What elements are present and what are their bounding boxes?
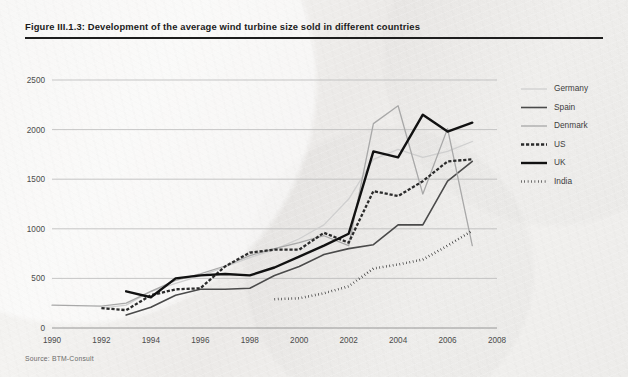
data-series-group	[52, 106, 472, 315]
x-axis-ticks-group: 1990199219941996199820002002200420062008	[43, 336, 507, 345]
y-axis-tick-label: 500	[31, 274, 45, 283]
x-axis-tick-label: 1992	[92, 336, 111, 345]
y-axis-tick-label: 0	[40, 324, 45, 333]
legend-label-denmark: Denmark	[554, 120, 589, 130]
figure-title: Figure III.1.3: Development of the avera…	[25, 21, 603, 33]
figure-page: Figure III.1.3: Development of the avera…	[0, 0, 628, 377]
legend-label-germany: Germany	[554, 83, 589, 93]
y-axis-tick-label: 1500	[27, 175, 46, 184]
legend-label-india: India	[554, 176, 572, 186]
y-axis-tick-label: 2000	[27, 126, 46, 135]
x-axis-tick-label: 1990	[43, 336, 62, 345]
legend-label-spain: Spain	[554, 102, 576, 112]
y-axis-tick-label: 2500	[27, 76, 46, 85]
gridlines-group	[52, 80, 497, 328]
x-axis-tick-label: 1994	[142, 336, 161, 345]
x-axis-tick-label: 2004	[389, 336, 408, 345]
y-axis-ticks-group: 05001000150020002500	[27, 76, 46, 333]
legend-label-us: US	[554, 139, 566, 149]
y-axis-tick-label: 1000	[27, 225, 46, 234]
series-line-uk	[126, 115, 472, 298]
x-axis-tick-label: 2008	[488, 336, 507, 345]
legend-label-uk: UK	[554, 157, 566, 167]
chart-legend: GermanySpainDenmarkUSUKIndia	[521, 83, 589, 186]
source-note: Source: BTM-Consult	[25, 355, 94, 362]
x-axis-tick-label: 1996	[191, 336, 210, 345]
figure-header: Figure III.1.3: Development of the avera…	[25, 21, 603, 39]
line-chart: 05001000150020002500 1990199219941996199…	[0, 55, 628, 347]
chart-container: 05001000150020002500 1990199219941996199…	[0, 55, 628, 347]
x-axis-tick-label: 2000	[290, 336, 309, 345]
title-divider	[25, 37, 603, 39]
x-axis-tick-label: 1998	[241, 336, 260, 345]
x-axis-tick-label: 2002	[340, 336, 359, 345]
series-line-us	[101, 159, 472, 310]
x-axis-tick-label: 2006	[438, 336, 457, 345]
